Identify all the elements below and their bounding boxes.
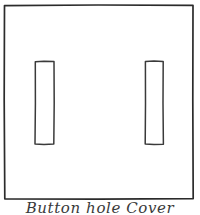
right-slot	[145, 61, 163, 145]
sketch-caption: Button hole Cover	[0, 201, 200, 215]
left-slot	[35, 61, 54, 144]
technical-sketch-drawing	[0, 0, 200, 215]
cover-plate-outline	[4, 5, 193, 199]
sketch-page: Button hole Cover	[0, 0, 200, 215]
